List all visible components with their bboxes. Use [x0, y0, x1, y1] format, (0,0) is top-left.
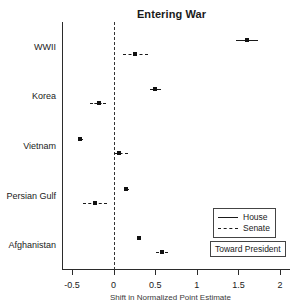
chart-container: Entering War WWIIKoreaVietnamPersian Gul… — [0, 0, 301, 303]
y-tick-label: Afghanistan — [0, 240, 56, 250]
legend-label-house: House — [243, 212, 268, 223]
x-axis-title: Shift in Normalized Point Estimate — [0, 293, 301, 302]
legend: House Senate — [213, 208, 276, 238]
x-tick — [197, 270, 198, 275]
point-estimate-marker — [160, 250, 164, 254]
y-tick-label: WWII — [0, 42, 56, 52]
point-estimate-marker — [78, 137, 82, 141]
point-estimate-marker — [117, 151, 121, 155]
point-estimate-marker — [153, 87, 157, 91]
x-tick — [114, 270, 115, 275]
point-estimate-marker — [124, 187, 128, 191]
point-estimate-marker — [97, 101, 101, 105]
x-axis-line — [62, 269, 290, 270]
x-tick-label: 2 — [277, 280, 282, 290]
x-tick-label: -0.5 — [64, 280, 80, 290]
y-tick-label: Persian Gulf — [0, 191, 56, 201]
legend-item-house: House — [218, 212, 270, 223]
x-tick — [72, 270, 73, 275]
point-estimate-marker — [93, 201, 97, 205]
legend-item-senate: Senate — [218, 223, 270, 234]
x-tick-label: 0.5 — [149, 280, 162, 290]
point-estimate-marker — [245, 38, 249, 42]
legend-line-solid-icon — [218, 217, 238, 218]
y-tick-label: Vietnam — [0, 141, 56, 151]
x-tick-label: 0 — [111, 280, 116, 290]
x-tick-label: 1.5 — [232, 280, 245, 290]
zero-reference-line — [114, 22, 115, 270]
legend-label-senate: Senate — [243, 223, 270, 234]
point-estimate-marker — [137, 236, 141, 240]
chart-title: Entering War — [0, 8, 301, 20]
x-tick-label: 1 — [194, 280, 199, 290]
x-tick — [280, 270, 281, 275]
y-tick-label: Korea — [0, 91, 56, 101]
legend-line-dashed-icon — [218, 228, 238, 229]
y-axis-line — [62, 22, 63, 270]
x-tick — [238, 270, 239, 275]
x-tick — [155, 270, 156, 275]
point-estimate-marker — [133, 52, 137, 56]
toward-president-annotation: Toward President — [210, 241, 286, 257]
